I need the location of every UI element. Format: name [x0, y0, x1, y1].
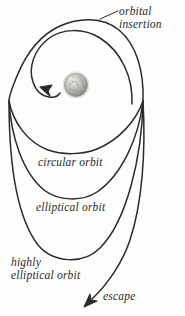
label-highly-elliptical-orbit-line1: highly — [11, 256, 80, 269]
label-orbital-insertion-line2: insertion — [119, 18, 162, 31]
label-orbital-insertion: orbital insertion — [119, 5, 162, 31]
label-orbital-insertion-line1: orbital — [119, 5, 162, 18]
orbit-diagram: orbital insertion circular orbit ellipti… — [0, 0, 185, 316]
elliptical-orbit-curve — [9, 101, 143, 199]
circular-orbit-curve — [9, 101, 143, 154]
highly-elliptical-orbit-curve — [9, 101, 143, 260]
orbital-insertion-leader-line — [100, 11, 118, 19]
planet-highlight — [68, 76, 75, 81]
label-elliptical-orbit: elliptical orbit — [36, 201, 105, 214]
planet-sphere — [65, 74, 88, 97]
label-escape: escape — [103, 290, 136, 303]
label-circular-orbit: circular orbit — [38, 156, 103, 169]
planet-group — [63, 72, 90, 99]
label-highly-elliptical-orbit-line2: elliptical orbit — [11, 269, 80, 282]
label-highly-elliptical-orbit: highly elliptical orbit — [11, 256, 80, 282]
